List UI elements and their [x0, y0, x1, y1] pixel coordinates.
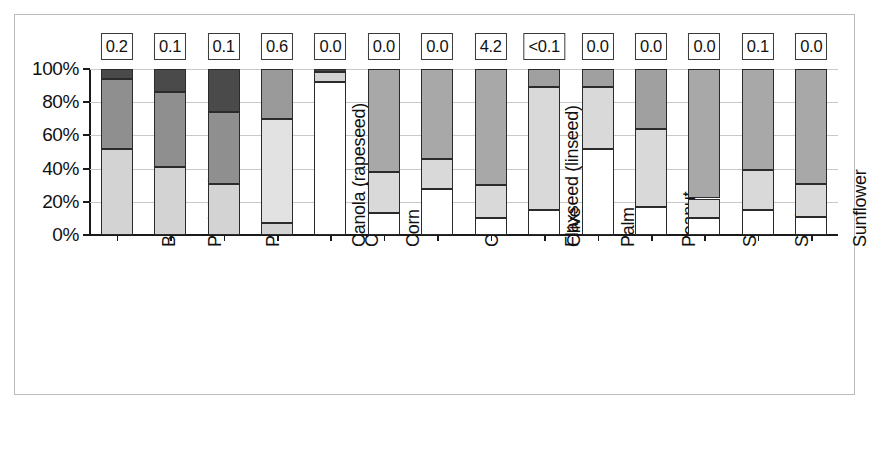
- stacked-bar[interactable]: [635, 69, 667, 235]
- x-axis-line: [84, 234, 838, 236]
- bar-segment-saturated: [101, 149, 133, 235]
- x-axis-tick: [491, 235, 493, 241]
- gridline: [90, 135, 838, 136]
- y-axis-tick-label: 60%: [42, 124, 79, 146]
- stacked-bar[interactable]: [742, 69, 774, 235]
- bar-column[interactable]: 4.2Flaxseed (linseed): [475, 69, 507, 235]
- y-axis-tick: [83, 101, 90, 103]
- bar-segment-polyunsaturated: [795, 69, 827, 184]
- bar-segment-monounsaturated: [582, 87, 614, 148]
- bar-value-label: 0.0: [314, 33, 346, 61]
- bar-value-label: 0.0: [368, 33, 400, 61]
- stacked-bar[interactable]: [208, 69, 240, 235]
- bar-column[interactable]: 0.6Canola (rapeseed): [261, 69, 293, 235]
- bar-value-label: 0.2: [101, 33, 133, 61]
- bar-value-label: 0.0: [795, 33, 827, 61]
- bar-segment-polyunsaturated: [208, 69, 240, 112]
- y-axis-tick-label: 20%: [42, 190, 79, 212]
- bar-segment-polyunsaturated: [528, 69, 560, 87]
- x-axis-tick: [651, 235, 653, 241]
- bar-segment-saturated: [582, 149, 614, 235]
- x-axis-tick: [277, 235, 279, 241]
- gridline: [90, 169, 838, 170]
- stacked-bar[interactable]: [475, 69, 507, 235]
- y-axis-tick: [83, 234, 90, 236]
- bar-segment-polyunsaturated: [421, 69, 453, 159]
- plot-area: 0%20%40%60%80%100% 0.2Beef tallow0.1Pork…: [90, 69, 838, 235]
- stacked-bar[interactable]: [101, 69, 133, 235]
- bar-value-label: 0.6: [261, 33, 293, 61]
- bar-segment-saturated: [475, 218, 507, 235]
- y-axis-line: [89, 69, 91, 235]
- bar-column[interactable]: 0.1Pork lard: [154, 69, 186, 235]
- x-axis-tick: [758, 235, 760, 241]
- x-axis-tick: [704, 235, 706, 241]
- bar-segment-monounsaturated: [368, 172, 400, 214]
- bar-segment-saturated: [208, 184, 240, 235]
- x-axis-tick: [437, 235, 439, 241]
- y-axis-tick-label: 100%: [32, 58, 79, 80]
- x-axis-tick: [384, 235, 386, 241]
- bar-column[interactable]: 0.0Peanut: [635, 69, 667, 235]
- gridline: [90, 69, 838, 70]
- stacked-bar[interactable]: [528, 69, 560, 235]
- bar-segment-saturated: [635, 207, 667, 235]
- bar-segment-saturated: [421, 189, 453, 235]
- bar-column[interactable]: 0.0Sunflower: [795, 69, 827, 235]
- y-axis-tick: [83, 134, 90, 136]
- bar-value-label: 0.0: [421, 33, 453, 61]
- bar-value-label: 0.0: [688, 33, 720, 61]
- bar-segment-saturated: [688, 218, 720, 235]
- bar-segment-polyunsaturated: [475, 69, 507, 185]
- x-axis-tick: [598, 235, 600, 241]
- bar-segment-monounsaturated: [154, 92, 186, 167]
- x-axis-tick: [170, 235, 172, 241]
- bar-segment-polyunsaturated: [688, 69, 720, 198]
- bar-value-label: 4.2: [475, 33, 507, 61]
- bar-column[interactable]: 0.0Cottonseed: [421, 69, 453, 235]
- bar-segment-saturated: [154, 167, 186, 235]
- bar-column[interactable]: 0.1Poultry fat: [208, 69, 240, 235]
- bar-segment-polyunsaturated: [261, 69, 293, 119]
- stacked-bar[interactable]: [261, 69, 293, 235]
- bar-column[interactable]: 0.0Coconut: [314, 69, 346, 235]
- bar-value-label: 0.1: [742, 33, 774, 61]
- bar-segment-saturated: [742, 210, 774, 235]
- chart-figure: 0%20%40%60%80%100% 0.2Beef tallow0.1Pork…: [14, 14, 855, 395]
- bar-value-label: 0.1: [208, 33, 240, 61]
- stacked-bar[interactable]: [795, 69, 827, 235]
- bar-segment-saturated: [795, 217, 827, 235]
- y-axis-tick: [83, 168, 90, 170]
- bar-value-label: 0.0: [635, 33, 667, 61]
- bar-segment-monounsaturated: [314, 72, 346, 82]
- bar-segment-saturated: [368, 213, 400, 235]
- bar-segment-polyunsaturated: [101, 69, 133, 79]
- bar-column[interactable]: 0.0Palm: [582, 69, 614, 235]
- stacked-bar[interactable]: [688, 69, 720, 235]
- bar-column[interactable]: 0.0Safflower: [688, 69, 720, 235]
- bar-column[interactable]: <0.1Olive: [528, 69, 560, 235]
- bar-segment-monounsaturated: [742, 170, 774, 210]
- y-axis-tick-label: 0%: [52, 224, 79, 246]
- bar-column[interactable]: 0.2Beef tallow: [101, 69, 133, 235]
- bar-column[interactable]: 0.1Soybean: [742, 69, 774, 235]
- bar-column[interactable]: 0.0Corn: [368, 69, 400, 235]
- bar-value-label: 0.1: [154, 33, 186, 61]
- bar-segment-polyunsaturated: [368, 69, 400, 172]
- stacked-bar[interactable]: [314, 69, 346, 235]
- y-axis-tick: [83, 68, 90, 70]
- bar-segment-monounsaturated: [101, 79, 133, 149]
- bar-segment-polyunsaturated: [635, 69, 667, 129]
- bar-segment-saturated: [261, 223, 293, 235]
- bar-value-label: 0.0: [582, 33, 614, 61]
- gridline: [90, 102, 838, 103]
- stacked-bar[interactable]: [368, 69, 400, 235]
- stacked-bar[interactable]: [154, 69, 186, 235]
- bar-segment-monounsaturated: [795, 184, 827, 217]
- stacked-bar[interactable]: [421, 69, 453, 235]
- bar-segment-monounsaturated: [528, 87, 560, 210]
- bar-segment-monounsaturated: [688, 199, 720, 219]
- y-axis-tick-label: 80%: [42, 91, 79, 113]
- bar-segment-polyunsaturated: [742, 69, 774, 170]
- stacked-bar[interactable]: [582, 69, 614, 235]
